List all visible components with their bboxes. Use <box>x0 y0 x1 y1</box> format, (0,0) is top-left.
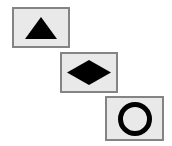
shape-card-triangle[interactable] <box>12 7 70 48</box>
shape-card-circle[interactable] <box>105 96 164 141</box>
shape-card-diamond[interactable] <box>60 52 118 93</box>
shape-canvas <box>0 0 172 146</box>
circle-icon <box>118 102 152 136</box>
triangle-icon <box>25 17 57 39</box>
diamond-icon <box>67 60 111 85</box>
